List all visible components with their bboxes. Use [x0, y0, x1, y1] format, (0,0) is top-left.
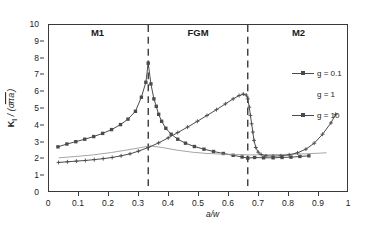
y-tick-label: 2 [34, 154, 39, 163]
data-point [134, 110, 137, 113]
data-point [110, 128, 113, 131]
x-tick-label: 0.2 [102, 199, 114, 208]
x-tick-label: 0.3 [132, 199, 144, 208]
legend-marker-icon [292, 91, 314, 99]
x-tick-mark [108, 192, 109, 196]
data-point [149, 82, 152, 85]
data-point [298, 155, 301, 158]
data-point [262, 156, 265, 159]
data-point [101, 132, 104, 135]
x-tick-label: 0.4 [162, 199, 174, 208]
x-axis-label: a/w [206, 209, 219, 219]
data-point [65, 142, 68, 145]
data-point [307, 154, 310, 157]
data-point [56, 145, 59, 148]
y-tick-label: 5 [34, 104, 39, 113]
data-point [74, 140, 77, 143]
data-point [140, 96, 143, 99]
data-point [193, 145, 196, 148]
series-line [58, 63, 309, 158]
x-tick-label: 0.7 [252, 199, 264, 208]
x-tick-mark [168, 192, 169, 196]
x-tick-mark [198, 192, 199, 196]
y-tick-label: 7 [34, 70, 39, 79]
data-point [126, 117, 129, 120]
x-axis-ticks: 00.10.20.30.40.50.60.70.80.91 [48, 192, 348, 212]
x-tick-label: 0.9 [312, 199, 324, 208]
data-point [176, 138, 179, 141]
y-tick-mark [40, 57, 44, 58]
data-point [92, 135, 95, 138]
y-tick-label: 3 [34, 137, 39, 146]
y-tick-mark [40, 74, 44, 75]
y-tick-label: 10 [30, 20, 39, 29]
region-label-m1: M1 [91, 27, 104, 38]
data-point [83, 138, 86, 141]
legend-label: g = 10 [317, 111, 339, 120]
data-point [240, 155, 243, 158]
data-point [144, 81, 147, 84]
x-tick-label: 0.6 [222, 199, 234, 208]
y-tick-label: 0 [34, 188, 39, 197]
data-point [212, 150, 215, 153]
y-tick-mark [40, 40, 44, 41]
x-tick-label: 0.1 [72, 199, 84, 208]
series-g-1 [59, 146, 326, 158]
legend-label: g = 0.1 [317, 69, 342, 78]
x-tick-label: 0.5 [192, 199, 204, 208]
data-point [152, 97, 155, 100]
y-tick-label: 9 [34, 37, 39, 46]
region-label-fgm: FGM [187, 27, 208, 38]
data-point [119, 123, 122, 126]
data-point [160, 120, 163, 123]
y-tick-label: 6 [34, 87, 39, 96]
x-tick-mark [228, 192, 229, 196]
y-tick-mark [40, 108, 44, 109]
y-tick-mark [40, 175, 44, 176]
data-point [184, 142, 187, 145]
x-tick-mark [288, 192, 289, 196]
y-tick-mark [40, 141, 44, 142]
series-g-0-1 [56, 62, 310, 160]
legend-marker-icon [292, 112, 314, 120]
data-point [289, 155, 292, 158]
x-tick-label: 0.8 [282, 199, 294, 208]
data-point [155, 105, 158, 108]
chart-figure: KI / (σπa) 012345678910 M1FGMM2 00.10.20… [0, 0, 375, 242]
legend-item: g = 1 [292, 84, 366, 105]
data-point [164, 127, 167, 130]
legend-marker-icon [292, 70, 314, 78]
legend-label: g = 1 [317, 90, 335, 99]
y-tick-label: 1 [34, 171, 39, 180]
y-tick-mark [40, 158, 44, 159]
y-tick-label: 8 [34, 53, 39, 62]
y-tick-label: 4 [34, 121, 39, 130]
y-tick-mark [40, 124, 44, 125]
x-tick-label: 0 [46, 199, 51, 208]
series-line [59, 146, 326, 158]
x-tick-mark [258, 192, 259, 196]
data-point [246, 156, 249, 159]
legend-item: g = 0.1 [292, 63, 366, 84]
y-tick-mark [40, 91, 44, 92]
legend-item: g = 10 [292, 105, 366, 126]
chart-legend: g = 0.1g = 1g = 10 [292, 63, 366, 126]
region-label-m2: M2 [292, 27, 305, 38]
y-axis-ticks: 012345678910 [0, 24, 44, 192]
x-tick-mark [138, 192, 139, 196]
data-point [253, 156, 256, 159]
data-point [157, 113, 160, 116]
x-tick-mark [78, 192, 79, 196]
data-point [202, 147, 205, 150]
data-point [222, 152, 225, 155]
x-tick-mark [318, 192, 319, 196]
data-point [147, 62, 150, 65]
x-tick-label: 1 [346, 199, 351, 208]
